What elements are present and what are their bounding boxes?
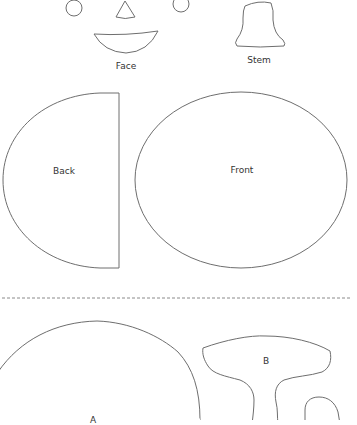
stem-label: Stem [247,55,271,65]
nose-triangle-shape [116,1,135,19]
face-label: Face [116,61,136,71]
left-eye-shape [66,0,82,16]
back-label: Back [53,166,75,176]
front-shape [135,92,347,268]
piece-a-shape [0,321,200,420]
piece-a-label: A [90,415,96,425]
front-label: Front [231,165,254,175]
small-piece-shape [305,397,340,420]
back-shape [3,93,119,268]
right-eye-shape [173,0,189,12]
stem-shape [236,2,285,47]
mouth-shape [94,31,158,53]
piece-b-label: B [263,356,269,366]
